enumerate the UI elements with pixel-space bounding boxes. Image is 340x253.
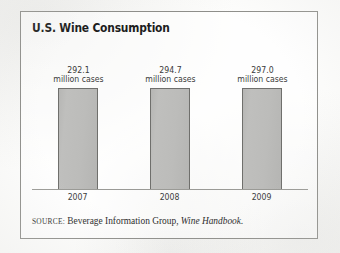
x-axis-labels: 2007 2008 2009 bbox=[32, 192, 308, 202]
bar-series: 292.1 million cases 294.7 million cases … bbox=[32, 45, 308, 189]
bar-units-2007: million cases bbox=[53, 75, 103, 85]
bar-units-2009: million cases bbox=[237, 75, 287, 85]
bar-rect-2008 bbox=[150, 88, 190, 189]
source-organization: Beverage Information Group, bbox=[67, 216, 178, 226]
plot-area: 292.1 million cases 294.7 million cases … bbox=[32, 45, 308, 190]
bar-group-2009: 297.0 million cases bbox=[216, 45, 307, 189]
bar-rect-2007 bbox=[58, 88, 98, 189]
page-title: U.S. Wine Consumption bbox=[32, 21, 170, 35]
bar-units-2008: million cases bbox=[145, 75, 195, 85]
source-publication: Wine Handbook. bbox=[181, 216, 244, 226]
source-note: Source: Beverage Information Group, Wine… bbox=[32, 216, 310, 226]
x-axis-label-2009: 2009 bbox=[219, 192, 306, 202]
bar-data-label-2009: 297.0 million cases bbox=[237, 66, 287, 85]
x-axis-label-2008: 2008 bbox=[127, 192, 214, 202]
x-axis-line bbox=[32, 189, 308, 190]
bar-rect-2009 bbox=[242, 88, 282, 189]
bar-data-label-2007: 292.1 million cases bbox=[53, 66, 103, 85]
source-label: Source: bbox=[32, 217, 65, 226]
bar-data-label-2008: 294.7 million cases bbox=[145, 66, 195, 85]
figure-frame: U.S. Wine Consumption 292.1 million case… bbox=[20, 11, 318, 239]
bar-group-2008: 294.7 million cases bbox=[124, 45, 215, 189]
bar-group-2007: 292.1 million cases bbox=[32, 45, 123, 189]
x-axis-label-2007: 2007 bbox=[35, 192, 122, 202]
